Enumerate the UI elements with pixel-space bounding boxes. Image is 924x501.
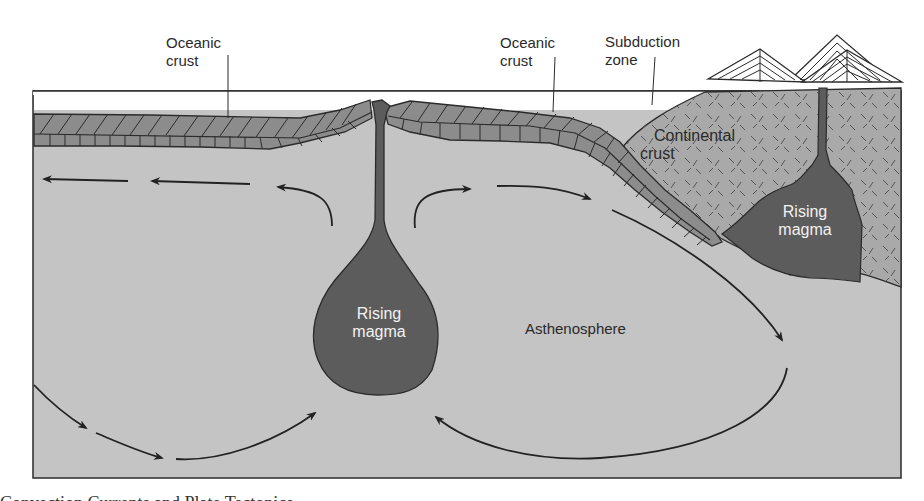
- label-asthenosphere: Asthenosphere: [525, 320, 626, 338]
- mountains-icon: [708, 35, 902, 82]
- convection-diagram: [0, 0, 924, 501]
- caption-partial: Convection Currents and Plate Tectonics: [0, 492, 924, 501]
- label-continental-crust: Continental crust: [654, 127, 735, 163]
- label-rising-magma-continent: Rising magma: [770, 203, 840, 239]
- label-oceanic-crust-right: Oceanic crust: [500, 34, 555, 70]
- label-oceanic-crust-left: Oceanic crust: [166, 34, 221, 70]
- label-rising-magma-ridge: Rising magma: [344, 305, 414, 341]
- label-subduction-zone: Subduction zone: [605, 33, 680, 69]
